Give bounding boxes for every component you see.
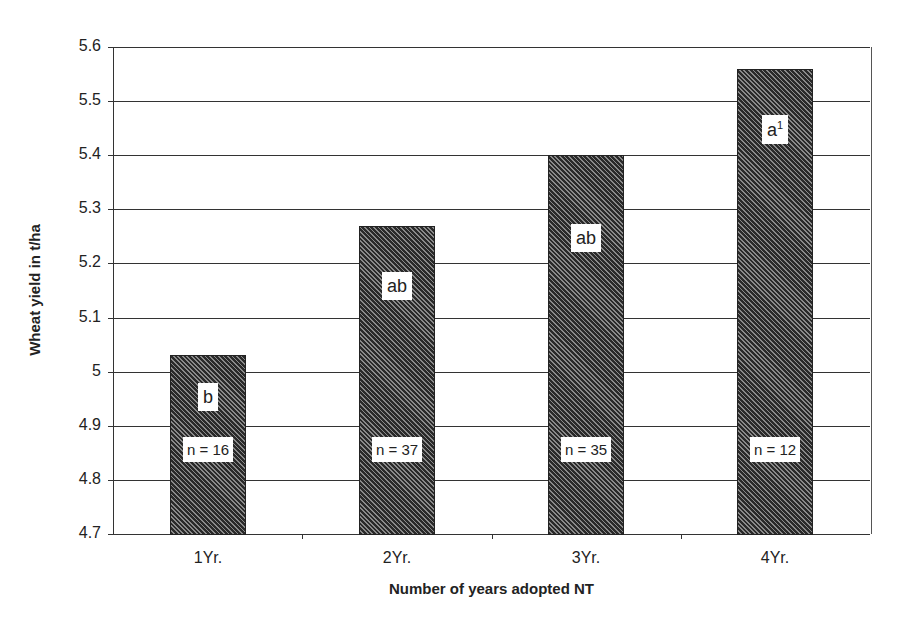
y-tick-label: 5.4: [41, 145, 101, 163]
bar-3yr: [548, 155, 624, 535]
y-tick-label: 4.9: [41, 416, 101, 434]
x-axis-title: Number of years adopted NT: [113, 580, 870, 597]
sample-size-label: n = 35: [561, 437, 611, 462]
x-tick-label: 2Yr.: [357, 549, 437, 567]
x-tick-mark: [681, 534, 682, 539]
significance-label: a1: [762, 115, 788, 144]
y-tick-label: 5.6: [41, 37, 101, 55]
gridline: [108, 47, 870, 48]
sample-size-label: n = 37: [372, 437, 422, 462]
sample-size-label: n = 12: [750, 437, 800, 462]
y-tick-label: 5.1: [41, 308, 101, 326]
significance-label: b: [198, 383, 218, 411]
y-tick-label: 5.2: [41, 253, 101, 271]
significance-label: ab: [571, 224, 601, 252]
y-tick-label: 4.8: [41, 470, 101, 488]
y-axis-title: Wheat yield in t/ha: [26, 224, 43, 356]
x-tick-mark: [302, 534, 303, 539]
y-tick-label: 5.3: [41, 199, 101, 217]
x-tick-label: 4Yr.: [735, 549, 815, 567]
significance-label: ab: [382, 272, 412, 300]
bar-chart: 5.65.55.45.35.25.154.94.84.7 1Yr.2Yr.3Yr…: [0, 0, 912, 631]
x-tick-mark: [492, 534, 493, 539]
y-tick-label: 5.5: [41, 91, 101, 109]
y-tick-label: 5: [41, 362, 101, 380]
y-tick-label: 4.7: [41, 524, 101, 542]
x-tick-label: 1Yr.: [168, 549, 248, 567]
sample-size-label: n = 16: [183, 437, 233, 462]
x-tick-label: 3Yr.: [546, 549, 626, 567]
